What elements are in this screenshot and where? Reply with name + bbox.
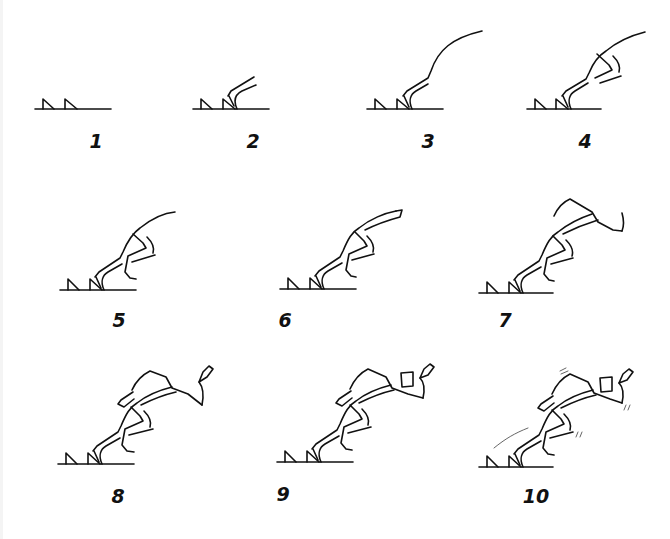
rear-shin [563, 83, 588, 109]
starting-block-rear [487, 282, 498, 293]
front-hand [619, 369, 633, 383]
motion-lines-head [560, 368, 568, 374]
leg-and-back-curve [315, 211, 396, 276]
front-thigh-and-foot [122, 407, 143, 452]
torso-underside [563, 220, 598, 234]
frame-label-1: 1 [89, 132, 102, 151]
rear-lower-leg [228, 77, 254, 96]
forearm [199, 382, 203, 405]
rear-hand-block [401, 372, 413, 387]
forearm [619, 383, 623, 403]
starting-block-rear [66, 453, 77, 464]
starting-block-rear [43, 99, 54, 109]
rear-foot-and-shin [229, 85, 256, 109]
rear-hand-block [600, 377, 612, 392]
torso-underside [561, 395, 596, 408]
drawing-canvas [0, 0, 670, 539]
knee-curve [566, 240, 573, 256]
frame-label-2: 2 [246, 132, 259, 151]
rear-hand [336, 391, 352, 406]
starting-block-front [65, 99, 77, 109]
frame-label-6: 6 [278, 311, 291, 330]
starting-block-rear [288, 278, 299, 289]
frame-label-3: 3 [421, 132, 434, 151]
torso-underside [141, 392, 176, 405]
rear-shin [316, 263, 342, 289]
knee-curve [362, 409, 369, 425]
starting-block-rear [201, 99, 212, 109]
leg-and-back-curve [514, 214, 592, 280]
front-shin [132, 255, 155, 262]
knee-curve [367, 236, 374, 252]
rear-shin [96, 264, 122, 290]
rear-shin [515, 441, 541, 467]
frame-5-drawing [60, 212, 175, 290]
rear-hand [538, 396, 554, 411]
leg-and-back-curve [562, 32, 645, 96]
torso-underside [359, 390, 394, 403]
rear-hand [118, 392, 134, 407]
frame-9-drawing [277, 364, 434, 462]
forearm [420, 378, 424, 398]
frame-10-drawing [479, 368, 633, 467]
frame-label-10: 10 [523, 487, 549, 506]
starting-block-rear [375, 99, 386, 109]
hand-curve [622, 213, 624, 231]
frame-1-drawing [35, 99, 111, 109]
sprint-start-sequence-diagram: 1 2 3 4 5 6 7 8 9 10 [0, 0, 670, 539]
frame-3-drawing [367, 31, 482, 109]
frame-2-drawing [193, 77, 269, 109]
frame-4-drawing [527, 32, 645, 109]
frame-label-9: 9 [276, 485, 289, 504]
leg-and-back-curve [403, 31, 482, 96]
front-hand [420, 364, 434, 378]
rear-shin [94, 438, 120, 464]
knee-curve [144, 411, 151, 427]
frame-label-4: 4 [578, 132, 591, 151]
front-thigh-and-foot [543, 410, 564, 455]
knee-curve [613, 56, 620, 72]
knee-curve [564, 414, 571, 430]
frame-7-drawing [479, 199, 624, 293]
shoulder-and-arm-outline [350, 369, 423, 398]
starting-block-rear [487, 456, 498, 467]
front-shin [600, 76, 621, 83]
frame-6-drawing [280, 210, 402, 289]
front-shin [551, 258, 573, 264]
frame-label-7: 7 [498, 311, 511, 330]
starting-block-rear [68, 279, 79, 290]
frame-label-8: 8 [111, 487, 124, 506]
knee-curve [147, 237, 154, 253]
starting-block-rear [285, 451, 296, 462]
motion-lines-hand [624, 405, 630, 410]
front-hand [199, 366, 213, 382]
front-shin [129, 429, 153, 435]
front-shin [550, 432, 573, 438]
rear-shin [404, 84, 428, 109]
front-thigh-and-foot [341, 405, 362, 450]
frame-8-drawing [58, 366, 213, 464]
front-shin [348, 427, 371, 433]
front-shin [352, 254, 374, 260]
motion-lines-knee [576, 432, 582, 437]
rear-shin [515, 267, 541, 293]
starting-block-rear [535, 99, 546, 109]
leg-and-back-curve [95, 212, 175, 277]
frame-label-5: 5 [112, 311, 125, 330]
rear-shin [313, 436, 339, 462]
